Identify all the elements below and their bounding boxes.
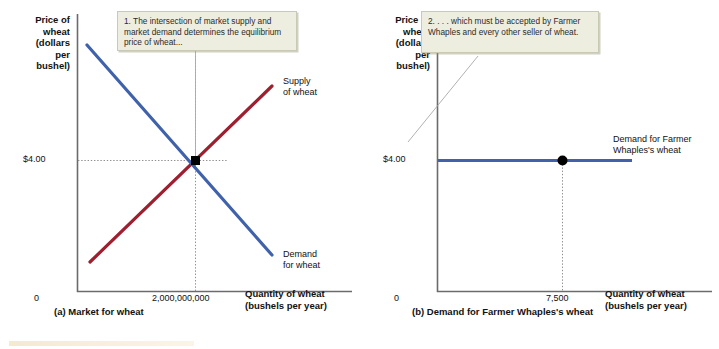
supply-curve-label: Supply of wheat — [283, 76, 317, 98]
panel-b-caption: (b) Demand for Farmer Whaples's wheat — [412, 306, 593, 317]
panel-b-y-axis-label: Price of wheat (dollars per bushel) — [362, 14, 430, 72]
panel-b: Price of wheat (dollars per bushel) $4.0… — [360, 0, 719, 349]
panel-b-y-tick-400: $4.00 — [383, 154, 406, 164]
panel-a-y-tick-400: $4.00 — [23, 154, 46, 164]
panel-a: Price of wheat (dollars per bushel) $4.0… — [0, 0, 359, 349]
panel-b-x-axis-label: Quantity of wheat (bushels per year) — [605, 288, 717, 311]
panel-a-x-tick-2000000000: 2,000,000,000 — [152, 293, 210, 303]
panel-b-origin-label: 0 — [394, 293, 399, 303]
bottom-accent-bar — [9, 341, 194, 346]
economics-figure: Price of wheat (dollars per bushel) $4.0… — [0, 0, 719, 349]
callout-2: 2. . . . which must be accepted by Farme… — [421, 11, 599, 53]
callout-1: 1. The intersection of market supply and… — [117, 11, 297, 51]
panel-a-caption: (a) Market for wheat — [54, 306, 144, 317]
panel-b-x-tick-7500: 7,500 — [546, 293, 569, 303]
panel-a-y-axis-label: Price of wheat (dollars per bushel) — [2, 14, 70, 72]
farmer-demand-curve-label: Demand for Farmer Whaples's wheat — [613, 134, 692, 156]
panel-a-origin-label: 0 — [34, 293, 39, 303]
demand-curve-label: Demand for wheat — [283, 249, 320, 271]
panel-a-x-axis-label: Quantity of wheat (bushels per year) — [245, 288, 357, 311]
